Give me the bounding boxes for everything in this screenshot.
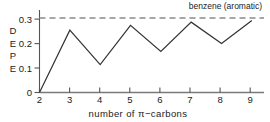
y-tick-label-2: 0.1 <box>19 63 32 74</box>
x-axis-caption: number of π−carbons <box>89 108 188 119</box>
y-axis-caption-char-0: D <box>10 25 17 36</box>
y-axis-caption-char-2: P <box>10 50 16 61</box>
x-tick-label-8: 8 <box>217 94 222 105</box>
benzene-reference-label: benzene (aromatic) <box>189 1 262 11</box>
y-axis-tick-labels: 0.3 0.2 0.1 0 <box>19 14 32 98</box>
depe-data-line <box>40 21 252 93</box>
x-tick-label-5: 5 <box>127 94 132 105</box>
x-tick-label-6: 6 <box>157 94 162 105</box>
y-axis-ticks <box>35 19 40 92</box>
chart-figure: 0.3 0.2 0.1 0 2 3 4 5 6 7 8 9 <box>0 0 270 122</box>
y-tick-label-1: 0.2 <box>19 38 32 49</box>
x-tick-label-3: 3 <box>67 94 72 105</box>
x-tick-label-9: 9 <box>248 94 253 105</box>
y-tick-label-0: 0.3 <box>19 14 32 25</box>
x-axis-tick-labels: 2 3 4 5 6 7 8 9 <box>37 94 253 105</box>
x-tick-label-7: 7 <box>187 94 192 105</box>
x-tick-label-4: 4 <box>97 94 102 105</box>
y-axis-caption-char-1: E <box>10 38 16 49</box>
y-axis-caption-char-3: E <box>10 63 16 74</box>
y-axis-caption: D E P E <box>10 25 17 74</box>
depe-line-chart: 0.3 0.2 0.1 0 2 3 4 5 6 7 8 9 <box>0 0 270 122</box>
y-tick-label-3: 0 <box>27 87 32 98</box>
x-tick-label-2: 2 <box>37 94 42 105</box>
